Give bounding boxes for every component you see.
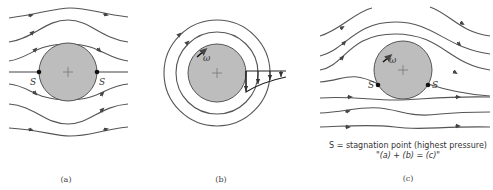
stagnation-point (95, 70, 100, 75)
legend-line-2: "(a) + (b) = (c)" (376, 151, 440, 160)
caption-c: (c) (403, 174, 414, 183)
stagnation-label: S (99, 77, 105, 87)
stagnation-point (426, 83, 431, 88)
caption-b: (b) (215, 175, 226, 184)
caption-a: (a) (60, 175, 71, 184)
stagnation-label: S (432, 80, 438, 90)
velocity-profile (246, 71, 286, 92)
panel-a: S S (a) (9, 8, 128, 184)
stagnation-label: S (368, 80, 374, 90)
legend-line-1: S = stagnation point (highest pressure) (329, 141, 487, 150)
omega-label: ω (203, 53, 211, 63)
omega-label: ω (389, 55, 397, 65)
stagnation-point (37, 70, 42, 75)
stagnation-label: S (30, 77, 36, 87)
streamline (9, 8, 128, 18)
panel-b: ω (b) (164, 20, 286, 184)
panel-c: S S ω S = stagnation point (highest pres… (320, 7, 490, 183)
flow-diagram: S S (a) ω (b) (0, 0, 493, 190)
stagnation-point (376, 83, 381, 88)
